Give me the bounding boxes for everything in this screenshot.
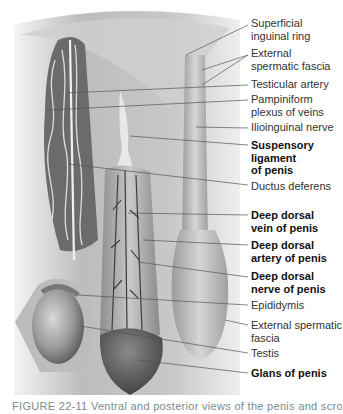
left-testis [32, 288, 84, 364]
label-external-spermatic-fascia-lower: External spermatic fascia [251, 319, 342, 344]
label-ilioinguinal-nerve: Ilioinguinal nerve [251, 121, 334, 134]
right-spermatic-cord [182, 55, 208, 240]
label-line: Superficial [251, 17, 310, 30]
label-line: Suspensory [251, 139, 314, 152]
label-line: External [251, 47, 330, 60]
label-line: Epididymis [251, 299, 304, 312]
label-line: of penis [251, 164, 314, 177]
label-testicular-artery: Testicular artery [251, 78, 329, 91]
label-line: Glans of penis [251, 367, 327, 380]
label-glans-of-penis: Glans of penis [251, 367, 327, 380]
label-testis: Testis [251, 347, 279, 360]
label-line: spermatic fascia [251, 60, 330, 73]
label-pampiniform-plexus: Pampiniform plexus of veins [251, 93, 324, 118]
label-line: inguinal ring [251, 30, 310, 43]
label-deep-dorsal-artery: Deep dorsal artery of penis [251, 239, 327, 264]
label-line: Pampiniform [251, 93, 324, 106]
label-line: Testicular artery [251, 78, 329, 91]
label-line: Ductus deferens [251, 180, 331, 193]
label-line: Ilioinguinal nerve [251, 121, 334, 134]
label-deep-dorsal-nerve: Deep dorsal nerve of penis [251, 270, 326, 295]
label-line: Deep dorsal [251, 209, 318, 222]
label-deep-dorsal-vein: Deep dorsal vein of penis [251, 209, 318, 234]
figure-caption: FIGURE 22-11 Ventral and posterior views… [12, 400, 342, 414]
label-line: plexus of veins [251, 106, 324, 119]
label-line: fascia [251, 332, 342, 345]
label-superficial-inguinal-ring: Superficial inguinal ring [251, 17, 310, 42]
penis-shaft [100, 165, 160, 340]
label-line: Deep dorsal [251, 270, 326, 283]
label-epididymis: Epididymis [251, 299, 304, 312]
label-line: Testis [251, 347, 279, 360]
label-line: ligament [251, 152, 314, 165]
label-line: artery of penis [251, 252, 327, 265]
label-external-spermatic-fascia: External spermatic fascia [251, 47, 330, 72]
label-line: External spermatic [251, 319, 342, 332]
label-line: vein of penis [251, 222, 318, 235]
label-line: nerve of penis [251, 283, 326, 296]
label-suspensory-ligament: Suspensory ligament of penis [251, 139, 314, 177]
label-ductus-deferens: Ductus deferens [251, 180, 331, 193]
label-line: Deep dorsal [251, 239, 327, 252]
